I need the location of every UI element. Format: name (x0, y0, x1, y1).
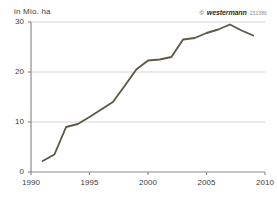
y-tick-label-30: 30 (2, 17, 24, 26)
axes (31, 22, 265, 172)
y-tick-label-0: 0 (2, 167, 24, 176)
tick-marks (28, 22, 265, 175)
x-tick-label-2010: 2010 (250, 178, 277, 187)
chart-plot-area (0, 0, 277, 198)
data-series-line (43, 25, 254, 162)
x-tick-label-1995: 1995 (75, 178, 105, 187)
x-tick-label-1990: 1990 (16, 178, 46, 187)
gridlines (31, 22, 265, 122)
x-tick-label-2000: 2000 (133, 178, 163, 187)
x-tick-label-2005: 2005 (192, 178, 222, 187)
y-tick-label-10: 10 (2, 117, 24, 126)
chart-figure: in Mio. ha © westermann 231386 0102030 1… (0, 0, 277, 198)
y-tick-label-20: 20 (2, 67, 24, 76)
